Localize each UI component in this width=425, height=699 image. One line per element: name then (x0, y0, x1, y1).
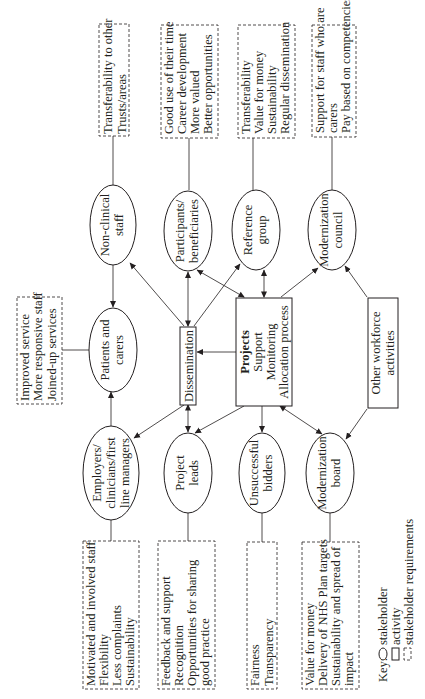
svg-text:Less complaints: Less complaints (110, 605, 124, 686)
svg-text:Pay based on competencies: Pay based on competencies (339, 0, 353, 133)
activity-dissemination: Dissemination (180, 327, 196, 405)
svg-text:activity: activity (389, 607, 403, 645)
svg-text:Modernization: Modernization (315, 435, 329, 509)
svg-text:Improved service: Improved service (18, 313, 32, 401)
svg-text:Transferability: Transferability (239, 59, 253, 134)
activity-other-workforce: Other workforce activities (368, 298, 398, 408)
svg-text:Key:: Key: (376, 658, 390, 682)
stakeholder-modernization-board: Modernization board (306, 433, 354, 513)
svg-text:Good use of their time: Good use of their time (162, 21, 176, 134)
svg-text:beneficiaries: beneficiaries (187, 199, 201, 263)
svg-text:stakeholder: stakeholder (376, 587, 390, 645)
svg-text:bidders: bidders (261, 454, 275, 491)
stakeholder-employers: Employers/ clinicians/first line manager… (83, 426, 139, 520)
svg-text:Sustainability and spread of: Sustainability and spread of (329, 546, 343, 686)
svg-text:carers: carers (112, 335, 126, 365)
svg-text:More valued: More valued (188, 70, 202, 134)
svg-text:carers: carers (326, 103, 340, 133)
svg-text:Value for money: Value for money (252, 50, 266, 134)
req-project-leads: Feedback and support Recognition Opportu… (158, 541, 215, 689)
svg-text:Delivery of NHS Plan targets: Delivery of NHS Plan targets (316, 539, 330, 686)
activity-projects: Projects Support Monitoring Allocation p… (236, 298, 292, 406)
svg-text:More responsive staff: More responsive staff (31, 291, 45, 401)
stakeholder-diagram: Transferability to other Trusts/areas Go… (0, 0, 425, 699)
stakeholder-reference-group: Reference group (232, 190, 280, 270)
diagram-canvas: Transferability to other Trusts/areas Go… (0, 0, 425, 699)
svg-text:Support: Support (251, 332, 265, 372)
req-employers: Motivated and involved staff Flexibility… (83, 541, 139, 689)
svg-text:Flexibility: Flexibility (97, 633, 111, 686)
svg-text:Reference: Reference (241, 204, 255, 255)
svg-text:Modernization: Modernization (317, 192, 331, 266)
stakeholder-unsuccessful-bidders: Unsuccessful bidders (239, 433, 285, 513)
svg-text:Regular dissemination: Regular dissemination (278, 21, 292, 134)
req-reference-group: Transferability Value for money Sustaina… (238, 21, 295, 138)
svg-text:stakeholder requirements: stakeholder requirements (402, 519, 416, 645)
svg-text:Project: Project (173, 455, 187, 491)
req-unsuccessful-bidders: Fairness Transparency (247, 542, 277, 689)
req-participants: Good use of their time Career developmen… (161, 21, 218, 138)
svg-text:Sustainability: Sustainability (123, 617, 137, 687)
req-patients-carers: Improved service More responsive staff J… (17, 291, 62, 404)
stakeholder-participants: Participants/ beneficiaries (164, 191, 212, 271)
svg-text:Better opportunities: Better opportunities (201, 34, 215, 134)
svg-text:good practice: good practice (198, 618, 212, 686)
req-non-clinical-staff: Transferability to other Trusts/areas (99, 18, 129, 136)
svg-text:Non-clinical: Non-clinical (98, 193, 112, 256)
svg-text:group: group (255, 215, 269, 244)
svg-text:council: council (331, 211, 345, 248)
req-modernization-board: Value for money Delivery of NHS Plan tar… (302, 539, 359, 689)
svg-text:board: board (329, 458, 343, 487)
legend-stakeholder-icon (379, 648, 387, 660)
svg-text:Transferability to other: Transferability to other (101, 18, 115, 134)
svg-text:Recognition: Recognition (172, 624, 186, 686)
svg-text:Career development: Career development (175, 32, 189, 134)
svg-text:clinicians/first: clinicians/first (104, 437, 118, 509)
stakeholder-modernization-council: Modernization council (308, 190, 356, 270)
svg-text:Unsuccessful: Unsuccessful (247, 439, 261, 506)
svg-text:activities: activities (383, 330, 397, 375)
svg-text:Employers/: Employers/ (90, 444, 104, 502)
svg-text:Motivated and involved staff: Motivated and involved staff (84, 541, 98, 686)
svg-text:leads: leads (187, 460, 201, 486)
svg-text:Projects: Projects (238, 330, 252, 374)
svg-text:Allocation process: Allocation process (277, 305, 291, 399)
svg-text:staff: staff (112, 213, 126, 236)
svg-text:Trusts/areas: Trusts/areas (115, 74, 129, 134)
svg-text:impact: impact (342, 651, 356, 686)
svg-text:Sustainability: Sustainability (265, 65, 279, 135)
svg-text:Feedback and support: Feedback and support (159, 576, 173, 686)
svg-text:Patients and: Patients and (98, 319, 112, 381)
svg-text:Dissemination: Dissemination (182, 329, 196, 402)
svg-text:Monitoring: Monitoring (264, 323, 278, 381)
svg-text:line managers: line managers (118, 438, 132, 508)
svg-text:Other workforce: Other workforce (369, 311, 383, 394)
svg-text:Transparency: Transparency (262, 618, 276, 686)
legend-activity-icon (392, 648, 399, 660)
svg-text:Value for money: Value for money (303, 602, 317, 686)
stakeholder-non-clinical-staff: Non-clinical staff (90, 185, 136, 265)
svg-text:Opportunities for sharing: Opportunities for sharing (185, 559, 199, 686)
legend: Key: stakeholder activity stakeholder re… (376, 519, 416, 682)
svg-text:Support for staff who are: Support for staff who are (313, 7, 327, 133)
svg-text:Joined-up services: Joined-up services (45, 308, 59, 401)
req-modernization-council: Support for staff who are carers Pay bas… (312, 0, 356, 137)
stakeholder-project-leads: Project leads (164, 433, 212, 513)
stakeholder-patients-carers: Patients and carers (89, 308, 137, 392)
svg-text:Fairness: Fairness (248, 644, 262, 686)
svg-text:Participants/: Participants/ (173, 199, 187, 262)
legend-requirements-icon (404, 648, 411, 660)
